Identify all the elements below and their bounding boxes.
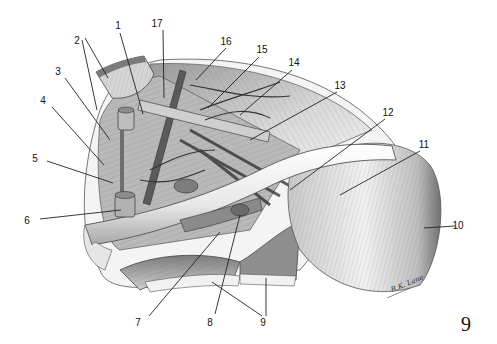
label-3: 3 — [55, 66, 61, 77]
label-14: 14 — [288, 57, 300, 68]
label-8: 8 — [207, 317, 213, 328]
label-16: 16 — [220, 36, 232, 47]
page-number: 9 — [461, 313, 471, 335]
label-2a: 2 — [74, 35, 80, 46]
label-11: 11 — [419, 139, 430, 150]
leader-line-9a — [212, 282, 262, 316]
label-4: 4 — [40, 95, 46, 106]
label-1: 1 — [115, 20, 121, 31]
label-10: 10 — [452, 220, 464, 231]
leader-line-2b — [82, 40, 97, 110]
label-15: 15 — [256, 44, 268, 55]
anatomy-plate: 1234567891011121314151617 R.K. Lane 9 — [0, 0, 497, 344]
label-6: 6 — [24, 215, 30, 226]
label-17: 17 — [151, 18, 163, 29]
label-12: 12 — [382, 107, 394, 118]
label-5: 5 — [32, 153, 38, 164]
label-9a: 9 — [260, 317, 266, 328]
label-13: 13 — [334, 80, 346, 91]
label-7: 7 — [135, 317, 141, 328]
